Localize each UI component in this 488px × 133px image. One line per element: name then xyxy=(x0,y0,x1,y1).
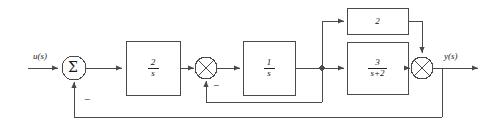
lag-block-denominator: s+2 xyxy=(368,69,386,78)
outer-feedback-sign: − xyxy=(84,94,90,105)
gain-block-2-over-s-numerator: 2 xyxy=(149,58,158,67)
integrator-block-1-over-s-label: 1 s xyxy=(243,41,295,95)
block-diagram-canvas: u(s) Σ y(s) − − 2 s 1 s 2 3 s+2 xyxy=(0,0,488,133)
integrator-block-numerator: 1 xyxy=(265,58,274,67)
gain-block-2-over-s-denominator: s xyxy=(149,69,157,78)
inner-feedback-sign: − xyxy=(213,80,219,91)
gain-block-2-over-s-label: 2 s xyxy=(126,41,180,95)
sigma-junction-glyph: Σ xyxy=(68,60,78,74)
input-label: u(s) xyxy=(33,52,47,61)
lag-block-3-over-s-plus-2-label: 3 s+2 xyxy=(347,42,408,94)
feedforward-gain-block-2-label: 2 xyxy=(347,8,408,34)
output-label: y(s) xyxy=(444,52,458,61)
feedforward-gain-value: 2 xyxy=(375,16,380,26)
integrator-block-denominator: s xyxy=(265,69,273,78)
lag-block-numerator: 3 xyxy=(373,58,382,67)
